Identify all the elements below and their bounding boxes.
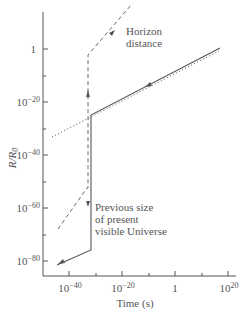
svg-text:1020: 1020 xyxy=(220,281,239,294)
svg-text:10−40: 10−40 xyxy=(58,281,82,294)
y-tick-labels: 1 10−20 10−40 10−60 10−80 xyxy=(16,43,40,267)
svg-text:1: 1 xyxy=(172,282,178,294)
svg-text:visible Universe: visible Universe xyxy=(95,225,167,237)
svg-text:10−60: 10−60 xyxy=(16,201,40,214)
svg-text:10−20: 10−20 xyxy=(111,281,135,294)
annotation-previous-size: Previous size of present visible Univers… xyxy=(95,201,167,237)
horizon-distance-line xyxy=(58,4,132,229)
svg-text:Horizon: Horizon xyxy=(126,25,163,37)
dotted-reference-line xyxy=(52,51,219,137)
svg-text:10−20: 10−20 xyxy=(16,95,40,108)
svg-text:of present: of present xyxy=(95,213,139,225)
x-tick-labels: 10−40 10−20 1 1020 xyxy=(58,281,238,294)
svg-text:Previous size: Previous size xyxy=(95,201,153,213)
solid-arrow-diag-icon xyxy=(145,82,152,87)
svg-text:10−40: 10−40 xyxy=(16,148,40,161)
y-axis-label: R/R0 xyxy=(6,148,20,170)
annotation-horizon: Horizon distance xyxy=(126,25,163,49)
solid-arrow-down-icon xyxy=(86,201,90,207)
svg-text:1: 1 xyxy=(31,43,37,55)
svg-text:10−80: 10−80 xyxy=(16,254,40,267)
svg-text:distance: distance xyxy=(126,37,162,49)
x-axis-label: Time (s) xyxy=(116,297,154,310)
horizon-arrow-diag-icon xyxy=(109,30,115,36)
solid-arrow-end-icon xyxy=(58,259,65,264)
chart: 1 10−20 10−40 10−60 10−80 10−40 10−20 1 … xyxy=(0,0,245,316)
horizon-arrow-up-icon xyxy=(86,90,90,97)
